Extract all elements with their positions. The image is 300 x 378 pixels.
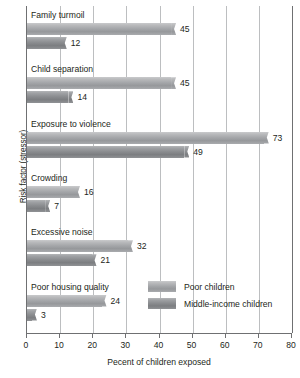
category-label: Family turmoil [31,10,84,21]
x-tick-label: 60 [213,340,237,350]
bar-value-label: 49 [193,147,203,157]
x-tick-label: 0 [14,340,38,350]
bar-row: 16 [27,186,292,198]
bar-tip [62,37,67,49]
bar-body [27,77,171,89]
legend-swatch [148,298,176,309]
bar-value-label: 73 [273,133,283,143]
bar-body [27,37,62,49]
legend-swatch [148,281,176,292]
bar-middle-income-children[interactable] [27,37,67,49]
bar-row: 45 [27,23,292,35]
legend-label: Middle-income children [184,299,272,309]
x-tick-70 [258,334,259,338]
bar-poor-children[interactable] [27,77,176,89]
x-tick-label: 30 [113,340,137,350]
bar-value-label: 45 [180,24,190,34]
bar-middle-income-children[interactable] [27,254,97,266]
bar-row: 32 [27,240,292,252]
bar-tip [45,200,50,212]
bar-tip [92,254,97,266]
bar-value-label: 45 [180,78,190,88]
bar-middle-income-children[interactable] [27,146,189,158]
bar-middle-income-children[interactable] [27,91,73,103]
bar-body [27,295,102,307]
bar-chart-figure: Risk factor (stressor) Family turmoil451… [0,0,300,378]
bar-row: 73 [27,132,292,144]
bar-value-label: 21 [101,255,111,265]
bar-value-label: 14 [77,92,87,102]
x-tick-label: 50 [180,340,204,350]
x-tick-60 [225,334,226,338]
bar-body [27,23,171,35]
x-tick-40 [159,334,160,338]
bar-tip [75,186,80,198]
legend-label: Poor children [184,282,235,292]
bar-body [27,254,92,266]
category-label: Excessive noise [31,227,93,238]
x-tick-20 [92,334,93,338]
bar-tip [128,240,133,252]
x-tick-label: 40 [147,340,171,350]
bar-poor-children[interactable] [27,23,176,35]
x-tick-30 [125,334,126,338]
x-tick-50 [192,334,193,338]
bar-tip [264,132,269,144]
legend-item[interactable]: Middle-income children [148,297,272,310]
bar-tip [184,146,189,158]
legend-item[interactable]: Poor children [148,280,272,293]
bar-body [27,91,68,103]
bar-value-label: 3 [41,310,46,320]
bar-row: 21 [27,254,292,266]
bar-body [27,200,45,212]
bar-row: 12 [27,37,292,49]
bar-row: 14 [27,91,292,103]
category-label: Crowding [31,173,67,184]
bar-tip [32,309,37,321]
bar-value-label: 24 [111,296,121,306]
x-axis-title: Pecent of children exposed [26,357,292,367]
bar-poor-children[interactable] [27,295,107,307]
bar-row: 45 [27,77,292,89]
bar-row: 7 [27,200,292,212]
bar-tip [171,77,176,89]
x-tick-label: 10 [47,340,71,350]
x-tick-label: 80 [279,340,300,350]
bar-tip [102,295,107,307]
bar-tip [171,23,176,35]
x-tick-10 [59,334,60,338]
bar-body [27,309,32,321]
bar-body [27,146,184,158]
bar-poor-children[interactable] [27,186,80,198]
x-tick-80 [291,334,292,338]
gridline-30 [126,6,127,333]
bar-value-label: 16 [84,187,94,197]
bar-tip [68,91,73,103]
bar-middle-income-children[interactable] [27,200,50,212]
bar-value-label: 12 [71,38,81,48]
bar-poor-children[interactable] [27,132,269,144]
bar-body [27,240,128,252]
bar-poor-children[interactable] [27,240,133,252]
bar-row: 49 [27,146,292,158]
x-tick-label: 20 [80,340,104,350]
category-label: Exposure to violence [31,119,111,130]
x-tick-label: 70 [246,340,270,350]
gridline-80 [292,6,293,333]
category-label: Poor housing quality [31,282,109,293]
x-tick-0 [26,334,27,338]
bar-body [27,132,264,144]
bar-value-label: 7 [54,201,59,211]
bar-value-label: 32 [137,241,147,251]
bar-body [27,186,75,198]
category-label: Child separation [31,64,93,75]
chart-legend: Poor childrenMiddle-income children [148,280,272,314]
bar-middle-income-children[interactable] [27,309,37,321]
